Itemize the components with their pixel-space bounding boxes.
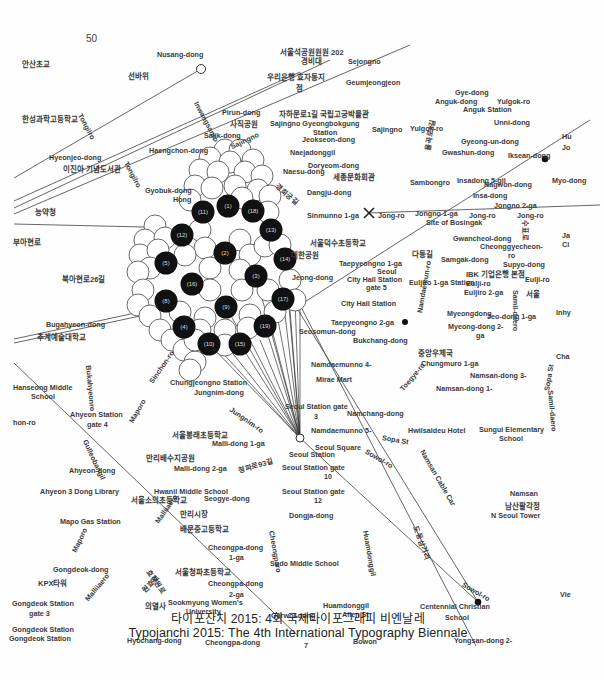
map-label: Euljiro 2-ga xyxy=(464,288,503,297)
caption-english: Typojanchi 2015: The 4th International T… xyxy=(128,626,468,640)
map-label: 7 xyxy=(304,641,308,650)
cluster-node: (18) xyxy=(242,200,265,223)
map-label: School xyxy=(499,434,523,443)
map-label: Sookmyung Women's xyxy=(168,598,243,607)
map-label: Seoul Station xyxy=(289,450,335,459)
map-label: 서울덕수초등학교 xyxy=(310,239,366,248)
map-label: Sajingno xyxy=(372,125,402,134)
svg-text:(14): (14) xyxy=(280,256,291,262)
cluster-node: (17) xyxy=(272,288,295,311)
map-label: 중앙우체국 xyxy=(418,349,453,358)
caption-korean: 타이포잔치 2015: 4회 국제타이포그래피 비엔날레 xyxy=(128,612,468,626)
map-label: KPX타워 xyxy=(38,579,67,588)
svg-text:(11): (11) xyxy=(198,209,208,215)
map-label: Namchang-dong xyxy=(347,409,404,418)
map-label: Sejongno xyxy=(348,57,381,66)
cluster-node: (11) xyxy=(192,201,215,224)
map-label: Gongdeok Station xyxy=(12,599,74,608)
map-label: Anguk Station xyxy=(463,105,512,114)
map-label: gate 3 xyxy=(29,609,50,618)
map-label: 의열사 xyxy=(145,602,166,611)
map-label: Gyeong-un-dong xyxy=(461,137,519,146)
map-label: Ahyeon Station xyxy=(70,410,123,419)
svg-text:(12): (12) xyxy=(177,232,188,238)
svg-text:(15): (15) xyxy=(235,341,246,347)
map-label: Cheonggyecheon- xyxy=(480,242,543,251)
map-label: Dangju-dong xyxy=(307,188,351,197)
map-label: Haengchon-dong xyxy=(149,146,208,155)
svg-text:(5): (5) xyxy=(162,260,169,266)
map-label: Chungjeongno Station xyxy=(170,378,247,387)
map-label: Chungmuro 1-ga xyxy=(421,359,479,368)
map-label: Nagwon-dong xyxy=(484,180,532,189)
map-label: 우리은행 효자동지 xyxy=(267,73,325,82)
cluster-node: (12) xyxy=(171,224,194,247)
map-label: N Seoul Tower xyxy=(491,511,540,520)
map-label: Cheongpa-dong xyxy=(208,543,263,552)
map-label: Gongdeok-dong xyxy=(53,565,109,574)
map-label: 사직공원 xyxy=(230,120,258,129)
map-label: Jong-ro xyxy=(517,211,544,220)
street-label: 수표로 xyxy=(521,220,530,241)
map-label: 안산초교 xyxy=(22,60,50,69)
map-label: Cheongpa-dong xyxy=(208,579,263,588)
map-label: Ja xyxy=(562,231,570,240)
page-caption: 타이포잔치 2015: 4회 국제타이포그래피 비엔날레 Typojanchi … xyxy=(128,612,468,640)
map-label: Myeongdong xyxy=(447,309,492,318)
map-label: Mirae Mart xyxy=(316,375,352,384)
svg-text:(2): (2) xyxy=(221,250,228,256)
cluster-node: (5) xyxy=(155,252,178,275)
map-label: ga xyxy=(476,331,484,340)
cluster-node: (1) xyxy=(217,195,240,218)
map-label: 서울 xyxy=(526,290,540,299)
map-label: Sinmunno 1-ga xyxy=(307,211,359,220)
map-label: 3 xyxy=(314,412,318,421)
svg-text:(10): (10) xyxy=(204,341,215,347)
map-label: Sajingno Gyeongbokgung xyxy=(270,119,359,128)
map-label: Seoul Station gate xyxy=(285,402,348,411)
map-label: Gyobuk-dong xyxy=(145,186,192,195)
map-label: Seoul Station gate xyxy=(282,463,345,472)
map-label: 선바위 xyxy=(128,72,149,81)
map-label: Iksean-dong xyxy=(508,151,550,160)
map-label: 배문중고등학교 xyxy=(180,525,229,534)
map-label: 경비대 xyxy=(301,57,322,66)
map-label: 만리배수지공원 xyxy=(146,454,195,463)
map-label: Naesu-dong xyxy=(283,167,325,176)
map-label: Unni-dong xyxy=(494,118,530,127)
map-label: Gye-dong xyxy=(455,88,489,97)
map-label: Malli-dong 2-ga xyxy=(174,464,227,473)
svg-text:(16): (16) xyxy=(187,281,198,287)
svg-text:(4): (4) xyxy=(180,324,187,330)
map-label: hon-ro xyxy=(13,418,36,427)
map-label: 10 xyxy=(324,472,332,481)
cluster-node: (8) xyxy=(155,290,178,313)
map-label: Namsan-dong 3- xyxy=(470,371,526,380)
book-page: 50 xyxy=(0,0,604,680)
map-label: 다동길 xyxy=(412,250,433,259)
cluster-node: (3) xyxy=(245,265,268,288)
map-label: 대한공원 xyxy=(291,251,319,260)
map-label: Ahyeon 3 Dong Library xyxy=(40,487,119,496)
map-label: Pirun-dong xyxy=(222,108,260,117)
map-label: Jong-ro xyxy=(469,211,496,220)
cluster-node: (16) xyxy=(181,273,204,296)
map-label: IBK 기업은행 본점 xyxy=(466,270,525,279)
map-label: Jeong-dong xyxy=(292,273,333,282)
cluster-node: (4) xyxy=(173,316,196,339)
map-label: Seogye-dong xyxy=(204,494,250,503)
map-label: School xyxy=(31,392,55,401)
map-label: 한성과학고등학교 xyxy=(22,115,78,124)
svg-text:(8): (8) xyxy=(162,298,169,304)
map-label: Jongno 1-ga xyxy=(415,209,458,218)
map-label: Eulji-ro xyxy=(525,275,550,284)
map-label: ro xyxy=(508,251,515,260)
map-label: Supyo-dong xyxy=(503,260,545,269)
map-label: Jeokseon-dong xyxy=(302,135,355,144)
map-label: Nusang-dong xyxy=(157,50,203,59)
map-label: gate 4 xyxy=(87,420,108,429)
map-label: Gongdeok Station xyxy=(9,634,71,643)
svg-text:(1): (1) xyxy=(224,203,231,209)
map-label: 12 xyxy=(314,496,322,505)
map-label: Jongno 2-ga xyxy=(494,201,537,210)
